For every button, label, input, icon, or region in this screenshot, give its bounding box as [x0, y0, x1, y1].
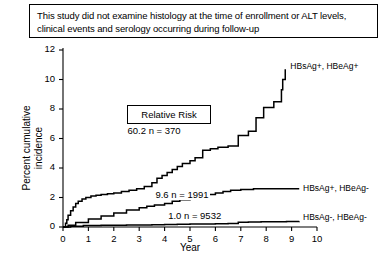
chart-page: This study did not examine histology at … — [0, 0, 384, 262]
y-tick-label: 4 — [29, 161, 55, 172]
relative-risk-value-hbsag-pos-hbeag-pos: 60.2 n = 370 — [127, 125, 182, 136]
x-tick-label: 10 — [307, 233, 327, 244]
x-tick-label: 3 — [129, 233, 149, 244]
caption-box: This study did not examine histology at … — [29, 4, 378, 38]
curve-label-hbsag-pos-hbeag-neg: HBsAg+, HBeAg- — [303, 183, 369, 193]
relative-risk-value-hbsag-pos-hbeag-neg: 9.6 n = 1991 — [154, 189, 209, 200]
x-tick-label: 1 — [78, 233, 98, 244]
y-tick-label: 6 — [29, 132, 55, 143]
y-tick-label: 10 — [29, 73, 55, 84]
curve-0 — [63, 69, 285, 227]
curve-2 — [63, 221, 299, 227]
curve-label-hbsag-pos-hbeag-pos: HBsAg+, HBeAg+ — [290, 61, 358, 71]
x-tick-label: 2 — [104, 233, 124, 244]
relative-risk-value-hbsag-neg-hbeag-neg: 1.0 n = 9532 — [167, 210, 222, 221]
x-tick-label: 7 — [231, 233, 251, 244]
plot-area: Percent cumulative incidence Year Relati… — [0, 40, 384, 262]
x-tick-label: 5 — [180, 233, 200, 244]
x-tick-label: 8 — [256, 233, 276, 244]
caption-text: This study did not examine histology at … — [37, 9, 373, 35]
relative-risk-title: Relative Risk — [128, 106, 210, 123]
x-tick-label: 0 — [53, 233, 73, 244]
y-tick-label: 8 — [29, 102, 55, 113]
y-tick-label: 0 — [29, 220, 55, 231]
curve-label-hbsag-neg-hbeag-neg: HBsAg-, HBeAg- — [303, 212, 367, 222]
y-tick-label: 12 — [29, 43, 55, 54]
x-tick-label: 9 — [282, 233, 302, 244]
plot-svg — [0, 40, 384, 262]
x-tick-label: 6 — [205, 233, 225, 244]
x-tick-label: 4 — [155, 233, 175, 244]
relative-risk-box: Relative Risk — [127, 105, 211, 124]
y-tick-label: 2 — [29, 191, 55, 202]
